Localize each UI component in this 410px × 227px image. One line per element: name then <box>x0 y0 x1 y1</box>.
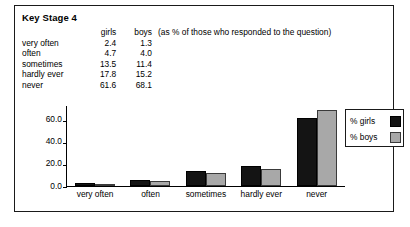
column-header-girls: girls <box>83 27 119 38</box>
bar-boys <box>95 184 115 186</box>
table-row: often 4.7 4.0 <box>22 48 154 59</box>
cell-girls: 4.7 <box>83 48 119 59</box>
bar-girls <box>130 180 150 185</box>
y-tick-mark <box>63 187 67 188</box>
row-label: often <box>22 48 83 59</box>
legend-swatch-girls <box>390 116 401 127</box>
bar-group <box>75 106 115 186</box>
x-axis-line <box>66 186 345 187</box>
column-header-boys: boys <box>118 27 154 38</box>
chart-legend: % girls % boys <box>345 109 404 147</box>
figure-panel: Key Stage 4 girls boys very often 2.4 1.… <box>0 0 410 227</box>
bar-group <box>186 106 226 186</box>
bar-group <box>297 106 337 186</box>
bar-boys <box>150 181 170 185</box>
bar-girls <box>75 183 95 186</box>
cell-boys: 15.2 <box>118 69 154 80</box>
cell-girls: 13.5 <box>83 59 119 70</box>
bar-boys <box>261 169 281 186</box>
bar-group <box>130 106 170 186</box>
cell-boys: 11.4 <box>118 59 154 70</box>
x-tick-label: hardly ever <box>241 189 282 199</box>
table-row: sometimes 13.5 11.4 <box>22 59 154 70</box>
cell-girls: 61.6 <box>83 80 119 91</box>
x-tick-label: very often <box>77 189 114 199</box>
cell-boys: 68.1 <box>118 80 154 91</box>
legend-label-girls: % girls <box>350 116 375 126</box>
y-tick-label: 40.0 <box>22 136 62 146</box>
x-tick-label: often <box>141 189 160 199</box>
row-label: hardly ever <box>22 69 83 80</box>
cell-boys: 4.0 <box>118 48 154 59</box>
row-label: sometimes <box>22 59 83 70</box>
plot-area <box>67 106 344 186</box>
y-tick-mark <box>63 165 67 166</box>
column-header-category <box>22 27 83 38</box>
bar-boys <box>206 173 226 186</box>
bar-girls <box>186 171 206 186</box>
y-tick-label: 60.0 <box>22 114 62 124</box>
row-label: very often <box>22 38 83 49</box>
bar-girls <box>297 118 317 186</box>
table-note: (as % of those who responded to the ques… <box>158 27 331 37</box>
data-table-wrapper: girls boys very often 2.4 1.3 often 4.7 … <box>22 27 154 91</box>
data-table: girls boys very often 2.4 1.3 often 4.7 … <box>22 27 154 91</box>
bar-chart: 0.020.040.060.0 very oftenoftensometimes… <box>22 103 382 203</box>
y-tick-mark <box>63 121 67 122</box>
y-tick-label: 20.0 <box>22 158 62 168</box>
legend-item-girls: % girls <box>350 114 401 128</box>
table-row: hardly ever 17.8 15.2 <box>22 69 154 80</box>
table-body: very often 2.4 1.3 often 4.7 4.0 sometim… <box>22 38 154 91</box>
bar-girls <box>241 166 261 186</box>
cell-girls: 17.8 <box>83 69 119 80</box>
legend-swatch-boys <box>390 132 401 143</box>
row-label: never <box>22 80 83 91</box>
cell-girls: 2.4 <box>83 38 119 49</box>
page-title: Key Stage 4 <box>22 12 77 23</box>
table-row: very often 2.4 1.3 <box>22 38 154 49</box>
table-header-row: girls boys <box>22 27 154 38</box>
y-tick-label: 0.0 <box>22 181 62 191</box>
x-tick-label: never <box>306 189 327 199</box>
x-tick-label: sometimes <box>186 189 227 199</box>
bar-boys <box>317 110 337 185</box>
legend-label-boys: % boys <box>350 132 377 142</box>
y-tick-mark <box>63 143 67 144</box>
bar-group <box>241 106 281 186</box>
legend-item-boys: % boys <box>350 130 401 144</box>
table-row: never 61.6 68.1 <box>22 80 154 91</box>
cell-boys: 1.3 <box>118 38 154 49</box>
